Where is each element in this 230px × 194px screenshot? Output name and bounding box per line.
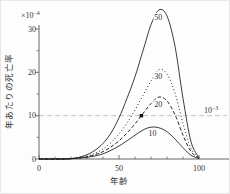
x-tick-label: 0 xyxy=(37,164,41,173)
x-tick-label: 50 xyxy=(115,164,123,173)
figure-page: 10−30102030050100×10−4年齢年あたりの死亡率50302010 xyxy=(0,0,230,194)
curve-label-20: 20 xyxy=(154,100,162,109)
x-axis-title: 年齢 xyxy=(110,176,128,186)
curve-20 xyxy=(39,97,199,159)
y-axis-title: 年あたりの死亡率 xyxy=(4,53,14,129)
reference-line-label: 10−3 xyxy=(204,105,218,115)
y-tick-label: 0 xyxy=(32,155,36,164)
curve-50 xyxy=(39,9,199,159)
mortality-rate-vs-age-chart: 10−30102030050100×10−4年齢年あたりの死亡率50302010 xyxy=(1,1,230,194)
curve-label-10: 10 xyxy=(149,129,157,138)
intersection-marker xyxy=(140,114,143,117)
y-tick-label: 10 xyxy=(28,111,36,120)
y-tick-label: 20 xyxy=(28,68,36,77)
y-tick-label: 30 xyxy=(28,25,36,34)
curve-label-30: 30 xyxy=(154,72,162,81)
x-tick-label: 100 xyxy=(193,164,205,173)
curve-label-50: 50 xyxy=(154,13,162,22)
curve-10 xyxy=(39,127,199,159)
y-scale-factor-label: ×10−4 xyxy=(21,10,40,20)
